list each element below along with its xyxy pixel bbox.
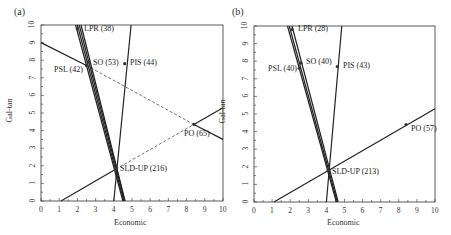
data-point — [123, 62, 126, 65]
x-tick-label: 5 — [343, 206, 347, 215]
data-point — [76, 27, 79, 30]
x-tick-label: 10 — [431, 206, 439, 215]
x-tick-label: 4 — [324, 206, 328, 215]
y-tick-label: 10 — [240, 22, 249, 30]
y-tick-label: 5 — [28, 111, 37, 115]
y-tick-label: 7 — [241, 76, 250, 80]
data-point — [290, 28, 293, 31]
chart-line — [114, 25, 131, 201]
x-tick-label: 0 — [39, 205, 43, 214]
x-tick-label: 9 — [203, 205, 207, 214]
y-tick-label: 0 — [28, 199, 37, 203]
data-point — [87, 60, 90, 63]
y-tick-label: 1 — [241, 182, 250, 186]
x-tick-label: 2 — [75, 205, 79, 214]
label-so: SO (53) — [93, 58, 119, 67]
chart-line — [289, 26, 337, 202]
y-tick-label: 8 — [241, 59, 250, 63]
x-tick-label: 0 — [252, 206, 256, 215]
x-tick-label: 3 — [94, 205, 98, 214]
y-tick-label: 1 — [28, 181, 37, 185]
data-point — [85, 64, 88, 67]
label-psl: PSL (40) — [268, 64, 297, 73]
data-point — [327, 169, 330, 172]
x-axis-label: Economic — [114, 218, 146, 227]
x-tick-label: 8 — [397, 206, 401, 215]
label-pis: PIS (43) — [343, 61, 370, 70]
y-tick-label: 2 — [28, 163, 37, 167]
x-tick-label: 7 — [379, 206, 383, 215]
x-tick-label: 1 — [270, 206, 274, 215]
label-pis: PIS (44) — [130, 58, 157, 67]
x-tick-label: 4 — [112, 205, 116, 214]
y-axis-label: Gal-tan — [218, 100, 227, 124]
label-po: PO (57) — [411, 124, 437, 133]
x-tick-label: 3 — [306, 206, 310, 215]
x-axis-label: Economic — [327, 218, 359, 227]
data-point — [404, 123, 407, 126]
x-tick-label: 9 — [415, 206, 419, 215]
plot-area — [226, 0, 451, 235]
y-tick-label: 3 — [28, 146, 37, 150]
label-psl: PSL (42) — [54, 65, 83, 74]
y-tick-label: 0 — [241, 200, 250, 204]
chart-line — [116, 124, 194, 169]
y-tick-label: 8 — [28, 58, 37, 62]
label-lpr: LPR (28) — [298, 24, 328, 33]
y-tick-label: 9 — [241, 41, 250, 45]
panel-a: (a) Gal-tan Economic LPR (38) SO (53) PS… — [0, 0, 225, 235]
data-point — [299, 61, 302, 64]
y-tick-label: 2 — [241, 164, 250, 168]
y-tick-label: 7 — [28, 75, 37, 79]
y-tick-label: 9 — [28, 40, 37, 44]
x-tick-label: 5 — [130, 205, 134, 214]
chart-line — [41, 43, 87, 66]
label-so: SO (40) — [306, 57, 332, 66]
data-point — [114, 168, 117, 171]
y-tick-label: 4 — [28, 128, 37, 132]
x-tick-label: 6 — [148, 205, 152, 214]
chart-line — [61, 169, 116, 201]
data-point — [192, 123, 195, 126]
y-tick-label: 4 — [241, 129, 250, 133]
label-sld-up: SLD-UP (213) — [332, 167, 379, 176]
y-tick-label: 3 — [241, 147, 250, 151]
x-tick-label: 2 — [288, 206, 292, 215]
data-point — [336, 65, 339, 68]
y-tick-label: 5 — [241, 112, 250, 116]
panel-b: (b) Gal-tan Economic LPR (28) SO (40) PS… — [226, 0, 451, 235]
label-po: PO (65) — [184, 129, 210, 138]
chart-line — [274, 109, 435, 202]
x-tick-label: 7 — [166, 205, 170, 214]
x-tick-label: 6 — [361, 206, 365, 215]
y-tick-label: 6 — [241, 94, 250, 98]
x-tick-label: 1 — [57, 205, 61, 214]
label-sld-up: SLD-UP (216) — [120, 164, 167, 173]
label-lpr: LPR (38) — [84, 24, 114, 33]
y-axis-label: Gal-tan — [5, 99, 14, 123]
y-tick-label: 6 — [28, 93, 37, 97]
data-point — [298, 67, 301, 70]
y-tick-label: 10 — [27, 21, 36, 29]
x-tick-label: 8 — [185, 205, 189, 214]
chart-line — [81, 25, 125, 201]
